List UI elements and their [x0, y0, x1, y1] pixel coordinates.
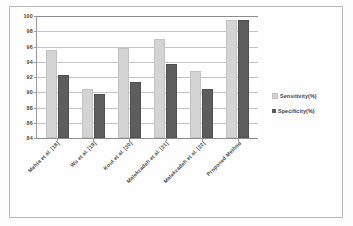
bar-group	[75, 16, 111, 138]
y-axis-tick-label: 90	[27, 89, 33, 95]
gridline	[37, 138, 258, 139]
y-axis-tick-label: 98	[27, 28, 33, 34]
y-axis-tick-label: 84	[27, 135, 33, 141]
legend-label-specificity: Specificity(%)	[278, 108, 315, 114]
chart-legend: Sensitivity(%) Specificity(%)	[272, 93, 346, 123]
x-axis-category-label: Kout et al. [20]	[51, 140, 133, 222]
x-axis-labels: Mehta et al. [18]Wu et al. [19]Kout et a…	[36, 140, 258, 210]
x-axis-category-label: Proposed Method	[160, 140, 242, 222]
bar-group	[111, 16, 147, 138]
x-axis-category-label: Malekzadeh et al. [21]	[87, 140, 169, 222]
bar-specificity	[94, 94, 105, 138]
bars-layer	[37, 16, 258, 138]
y-axis-tick-mark	[34, 138, 37, 139]
bar-group	[39, 16, 75, 138]
x-axis-category-label: Malekzadeh et al. [22]	[124, 140, 206, 222]
bar-sensitivity	[118, 48, 129, 138]
y-axis-tick-label: 96	[27, 44, 33, 50]
bar-specificity	[130, 82, 141, 138]
bar-chart-figure: 8486889092949698100 Mehta et al. [18]Wu …	[0, 0, 353, 226]
plot-area: 8486889092949698100	[36, 16, 258, 138]
y-axis-tick-label: 86	[27, 120, 33, 126]
plot-wrapper: 8486889092949698100	[36, 16, 258, 138]
bar-group	[184, 16, 220, 138]
bar-sensitivity	[226, 20, 237, 138]
legend-swatch-sensitivity-icon	[272, 93, 278, 99]
legend-swatch-specificity-icon	[272, 109, 276, 113]
bar-sensitivity	[154, 39, 165, 138]
y-axis-tick-label: 88	[27, 105, 33, 111]
bar-group	[148, 16, 184, 138]
bar-group	[220, 16, 256, 138]
bar-sensitivity	[46, 50, 57, 138]
legend-label-sensitivity: Sensitivity(%)	[280, 93, 317, 99]
y-axis-tick-label: 92	[27, 74, 33, 80]
bar-specificity	[58, 75, 69, 138]
bar-sensitivity	[190, 71, 201, 138]
y-axis-tick-label: 94	[27, 59, 33, 65]
bar-specificity	[166, 64, 177, 138]
bar-specificity	[238, 20, 249, 138]
bar-specificity	[202, 89, 213, 138]
y-axis-tick-label: 100	[23, 13, 33, 19]
legend-item-specificity: Specificity(%)	[272, 108, 346, 114]
bar-sensitivity	[82, 89, 93, 138]
legend-item-sensitivity: Sensitivity(%)	[272, 93, 346, 99]
